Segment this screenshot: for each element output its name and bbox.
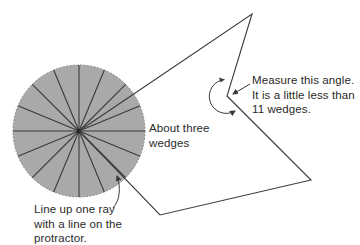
about-three-wedges-label: About three wedges [149,121,210,150]
label-line: wedges [149,136,210,151]
label-line: Measure this angle. [252,73,355,88]
measure-pointer-arrow [233,84,250,94]
label-line: 11 wedges. [252,102,355,117]
label-line: About three [149,121,210,136]
line-up-ray-label: Line up one ray with a line on the protr… [34,202,122,245]
label-line: Line up one ray [34,202,122,217]
measure-angle-label: Measure this angle. It is a little less … [252,73,355,117]
label-line: It is a little less than [252,88,355,103]
label-line: protractor. [34,231,122,245]
angle-arc-start-arrowhead-icon [219,78,225,83]
angle-arc [209,80,235,114]
label-line: with a line on the [34,217,122,232]
diagram-canvas: About three wedges Measure this angle. I… [0,0,360,245]
